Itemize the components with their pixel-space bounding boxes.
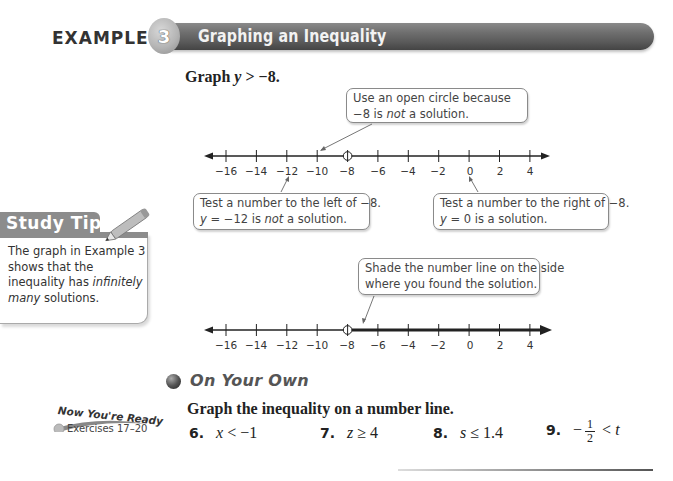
example-label: EXAMPLE xyxy=(52,28,149,48)
tick-label: −6 xyxy=(370,165,385,177)
tick-label: −12 xyxy=(276,165,298,177)
tick-label: −16 xyxy=(215,165,237,177)
tick-label: −14 xyxy=(245,339,267,351)
callout-test-right: Test a number to the right of −8. y = 0 … xyxy=(433,193,609,230)
prompt-rest: > −8. xyxy=(241,68,279,85)
callout-test-left: Test a number to the left of −8. y = −12… xyxy=(193,193,370,230)
callout-shade: Shade the number line on the side where … xyxy=(358,258,540,295)
prompt-prefix: Graph xyxy=(185,68,230,85)
callout-line: Test a number to the right of −8. xyxy=(440,196,602,212)
tick-label: −8 xyxy=(339,339,354,351)
tick-label: −2 xyxy=(430,339,445,351)
tick-label: 4 xyxy=(527,339,534,351)
callout-line: Use an open circle because xyxy=(353,91,521,107)
tick-label: −14 xyxy=(245,165,267,177)
callout-line: −8 is not a solution. xyxy=(353,107,521,123)
tick-label: 0 xyxy=(467,165,474,177)
tick-label: −6 xyxy=(370,339,385,351)
tick-label: 2 xyxy=(497,165,504,177)
exercise-6: 6.x < −1 xyxy=(189,424,257,442)
on-your-own-icon xyxy=(166,374,181,389)
tick-label: 0 xyxy=(467,339,474,351)
study-tip-heading: Study Tip xyxy=(6,213,102,233)
exercise-8: 8.s ≤ 1.4 xyxy=(433,424,503,442)
tick-label: −4 xyxy=(400,339,415,351)
callout-open-circle: Use an open circle because −8 is not a s… xyxy=(346,88,528,123)
study-tip-body: The graph in Example 3 shows that the in… xyxy=(8,244,148,306)
tick-label: −4 xyxy=(400,165,415,177)
tick-label: −12 xyxy=(276,339,298,351)
fraction: 12 xyxy=(585,418,595,445)
callout-line: where you found the solution. xyxy=(365,277,533,293)
on-your-own-title: On Your Own xyxy=(190,371,309,390)
exercise-7: 7.z ≥ 4 xyxy=(320,424,378,442)
on-your-own-instruction: Graph the inequality on a number line. xyxy=(187,400,454,418)
problem-prompt: Graph y > −8. xyxy=(185,68,280,86)
example-title: Graphing an Inequality xyxy=(198,25,386,46)
example-number-badge: 3 xyxy=(148,18,180,54)
tick-label: −10 xyxy=(306,339,328,351)
tick-label: 2 xyxy=(497,339,504,351)
tick-label: 4 xyxy=(527,165,534,177)
exercise-9: 9.−12 < t xyxy=(546,418,620,445)
bottom-divider xyxy=(398,469,653,471)
callout-line: Test a number to the left of −8. xyxy=(200,196,363,212)
tick-label: −2 xyxy=(430,165,445,177)
pencil-icon xyxy=(100,205,158,245)
exercises-reference-link[interactable]: Exercises 17–20 xyxy=(67,423,147,434)
tick-label: −16 xyxy=(215,339,237,351)
callout-line: y = 0 is a solution. xyxy=(440,212,602,228)
callout-line: Shade the number line on the side xyxy=(365,261,533,277)
tick-label: −8 xyxy=(339,165,354,177)
tick-label: −10 xyxy=(306,165,328,177)
callout-line: y = −12 is not a solution. xyxy=(200,212,363,228)
